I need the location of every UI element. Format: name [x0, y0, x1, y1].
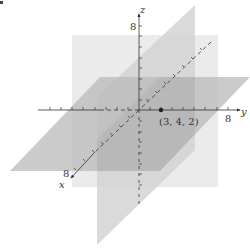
y-tick-label: 8	[225, 113, 231, 124]
coordinate-diagram: z 8 y 8 8 x (3, 4, 2)	[0, 0, 250, 252]
y-axis-label: y	[240, 106, 247, 117]
x-tick-label: 8	[63, 168, 69, 179]
point-label: (3, 4, 2)	[159, 116, 199, 127]
x-axis-label: x	[59, 179, 65, 190]
z-tick-label: 8	[130, 21, 136, 32]
point-marker	[159, 108, 163, 112]
corner-mark	[0, 1, 3, 4]
z-axis-label: z	[139, 4, 146, 15]
